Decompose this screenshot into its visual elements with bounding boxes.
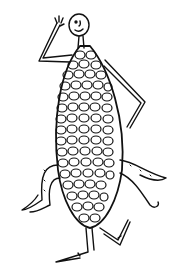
left-husk (22, 165, 60, 212)
head (69, 14, 89, 36)
right-husk (120, 160, 166, 207)
corn-character-drawing (0, 0, 181, 275)
corn-cob (56, 46, 123, 228)
corn-illustration (0, 0, 181, 275)
left-arm (39, 16, 72, 62)
